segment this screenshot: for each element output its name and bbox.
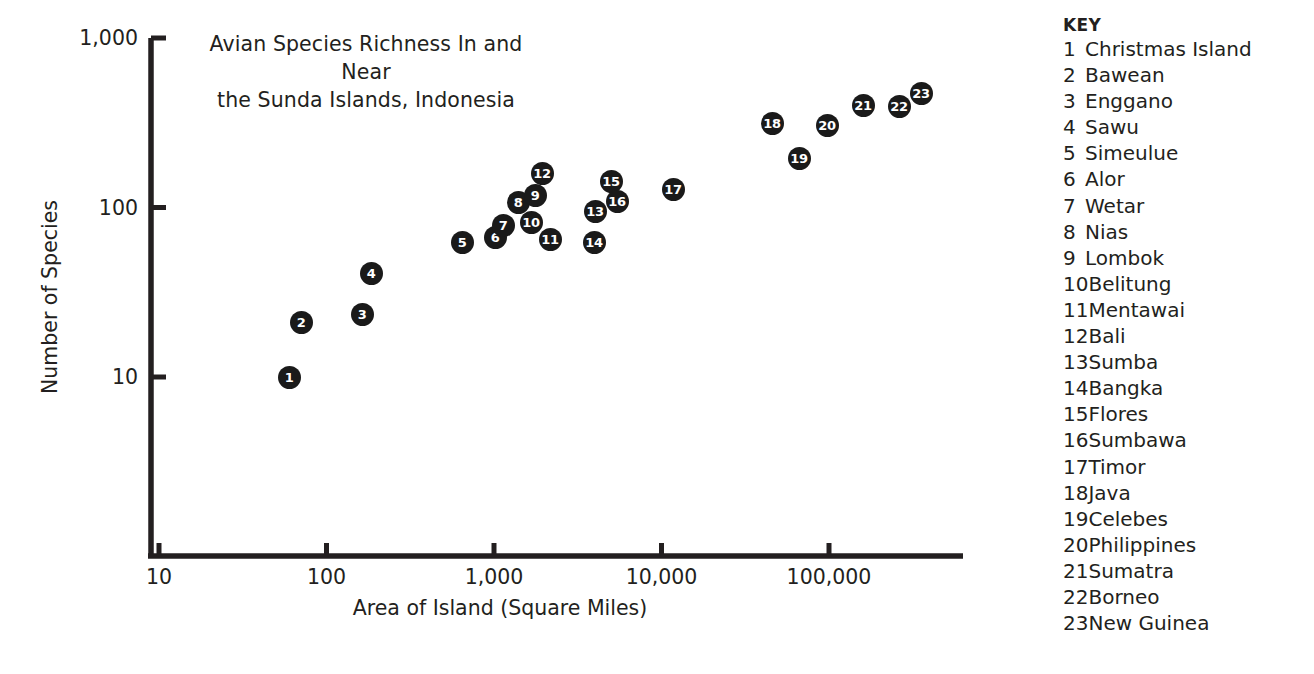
x-tick-label-100000: 100,000 — [787, 565, 872, 589]
key-item-label: Sumbawa — [1088, 428, 1186, 452]
data-point-5: 5 — [451, 231, 474, 254]
data-point-22: 22 — [888, 95, 911, 118]
key-item-number: 6 — [1063, 166, 1085, 192]
key-item-label: Philippines — [1088, 533, 1196, 557]
x-tick-label-1000: 1,000 — [465, 565, 524, 589]
data-point-4: 4 — [360, 262, 383, 285]
key-list: 1Christmas Island2Bawean3Enggano4Sawu5Si… — [1063, 36, 1303, 636]
key-item-11: 11Mentawai — [1063, 297, 1303, 323]
key-item-13: 13Sumba — [1063, 349, 1303, 375]
data-point-11: 11 — [539, 228, 562, 251]
key-item-20: 20Philippines — [1063, 532, 1303, 558]
key-item-label: New Guinea — [1088, 611, 1209, 635]
axis-lines — [148, 38, 963, 558]
key-item-23: 23New Guinea — [1063, 610, 1303, 636]
key-item-19: 19Celebes — [1063, 506, 1303, 532]
key-item-number: 12 — [1063, 323, 1088, 349]
key-item-14: 14Bangka — [1063, 375, 1303, 401]
data-point-18: 18 — [761, 112, 784, 135]
data-point-15: 15 — [600, 170, 623, 193]
key-item-number: 5 — [1063, 140, 1085, 166]
key-item-number: 20 — [1063, 532, 1088, 558]
key-item-label: Flores — [1088, 402, 1148, 426]
y-tick-label-1000: 1,000 — [0, 26, 138, 50]
key-item-number: 21 — [1063, 558, 1088, 584]
key-item-number: 7 — [1063, 193, 1085, 219]
chart-title-line-2: the Sunda Islands, Indonesia — [186, 86, 546, 114]
y-tick-label-10: 10 — [0, 365, 138, 389]
data-point-19: 19 — [788, 147, 811, 170]
data-point-3: 3 — [351, 303, 374, 326]
key-item-number: 10 — [1063, 271, 1088, 297]
key-item-17: 17Timor — [1063, 454, 1303, 480]
scatter-plot-figure: Avian Species Richness In and Near the S… — [0, 0, 1020, 674]
key-item-6: 6Alor — [1063, 166, 1303, 192]
key-item-10: 10Belitung — [1063, 271, 1303, 297]
y-tick-label-100: 100 — [0, 196, 138, 220]
x-tick-label-100: 100 — [307, 565, 346, 589]
key-item-number: 2 — [1063, 62, 1085, 88]
key-item-16: 16Sumbawa — [1063, 427, 1303, 453]
key-item-label: Nias — [1085, 220, 1128, 244]
key-item-12: 12Bali — [1063, 323, 1303, 349]
key-item-number: 11 — [1063, 297, 1088, 323]
key-item-label: Mentawai — [1088, 298, 1185, 322]
data-point-23: 23 — [910, 82, 933, 105]
data-point-2: 2 — [290, 311, 313, 334]
key-item-number: 9 — [1063, 245, 1085, 271]
key-item-label: Borneo — [1088, 585, 1159, 609]
key-item-label: Simeulue — [1085, 141, 1178, 165]
data-point-14: 14 — [583, 231, 606, 254]
key-item-18: 18Java — [1063, 480, 1303, 506]
key-item-21: 21Sumatra — [1063, 558, 1303, 584]
key-item-22: 22Borneo — [1063, 584, 1303, 610]
key-item-8: 8Nias — [1063, 219, 1303, 245]
x-tick-label-10000: 10,000 — [626, 565, 698, 589]
key-item-number: 17 — [1063, 454, 1088, 480]
key-item-label: Enggano — [1085, 89, 1173, 113]
key-item-9: 9Lombok — [1063, 245, 1303, 271]
key-item-number: 15 — [1063, 401, 1088, 427]
key-item-15: 15Flores — [1063, 401, 1303, 427]
key-item-number: 19 — [1063, 506, 1088, 532]
key-item-number: 4 — [1063, 114, 1085, 140]
key-legend: KEY 1Christmas Island2Bawean3Enggano4Saw… — [1063, 14, 1303, 636]
key-item-number: 1 — [1063, 36, 1085, 62]
key-item-number: 8 — [1063, 219, 1085, 245]
data-point-12: 12 — [531, 162, 554, 185]
key-item-label: Bawean — [1085, 63, 1165, 87]
key-item-7: 7Wetar — [1063, 193, 1303, 219]
key-item-label: Sawu — [1085, 115, 1139, 139]
data-point-17: 17 — [662, 178, 685, 201]
chart-title-line-1: Avian Species Richness In and Near — [186, 30, 546, 86]
key-item-number: 16 — [1063, 427, 1088, 453]
data-point-10: 10 — [520, 211, 543, 234]
data-point-21: 21 — [852, 94, 875, 117]
key-item-3: 3Enggano — [1063, 88, 1303, 114]
key-item-label: Alor — [1085, 167, 1125, 191]
key-item-label: Bangka — [1088, 376, 1163, 400]
key-item-4: 4Sawu — [1063, 114, 1303, 140]
key-item-number: 13 — [1063, 349, 1088, 375]
key-item-label: Sumatra — [1088, 559, 1173, 583]
x-tick-label-10: 10 — [146, 565, 172, 589]
data-point-16: 16 — [606, 190, 629, 213]
data-point-1: 1 — [278, 366, 301, 389]
key-item-label: Bali — [1088, 324, 1125, 348]
key-item-number: 3 — [1063, 88, 1085, 114]
key-item-label: Lombok — [1085, 246, 1164, 270]
data-point-9: 9 — [524, 184, 547, 207]
key-item-number: 18 — [1063, 480, 1088, 506]
key-item-label: Timor — [1088, 455, 1145, 479]
x-axis-title: Area of Island (Square Miles) — [300, 596, 700, 620]
key-item-number: 14 — [1063, 375, 1088, 401]
key-item-1: 1Christmas Island — [1063, 36, 1303, 62]
key-item-5: 5Simeulue — [1063, 140, 1303, 166]
key-item-label: Belitung — [1088, 272, 1171, 296]
data-point-20: 20 — [816, 114, 839, 137]
key-item-number: 23 — [1063, 610, 1088, 636]
key-item-label: Java — [1088, 481, 1130, 505]
data-point-13: 13 — [584, 200, 607, 223]
chart-title: Avian Species Richness In and Near the S… — [186, 30, 546, 114]
key-item-label: Wetar — [1085, 194, 1144, 218]
